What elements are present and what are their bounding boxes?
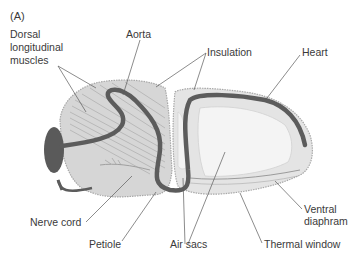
label-dorsal-1: Dorsal (10, 28, 40, 40)
label-nerve-cord: Nerve cord (30, 216, 82, 228)
label-heart: Heart (302, 46, 328, 58)
label-insulation: Insulation (207, 46, 252, 58)
panel-label: (A) (10, 10, 25, 22)
label-dorsal-2: longitudinal (10, 41, 63, 53)
label-aorta: Aorta (126, 28, 151, 40)
label-dorsal-3: muscles (10, 54, 49, 66)
label-ventral-1: Ventral (304, 203, 337, 215)
bee-anatomy-diagram: (A) (0, 0, 361, 261)
label-thermal-window: Thermal window (264, 238, 341, 250)
label-ventral-2: diaphram (304, 215, 348, 227)
abdomen (173, 88, 312, 194)
label-air-sacs: Air sacs (170, 238, 207, 250)
label-petiole: Petiole (89, 238, 121, 250)
head (44, 127, 64, 173)
